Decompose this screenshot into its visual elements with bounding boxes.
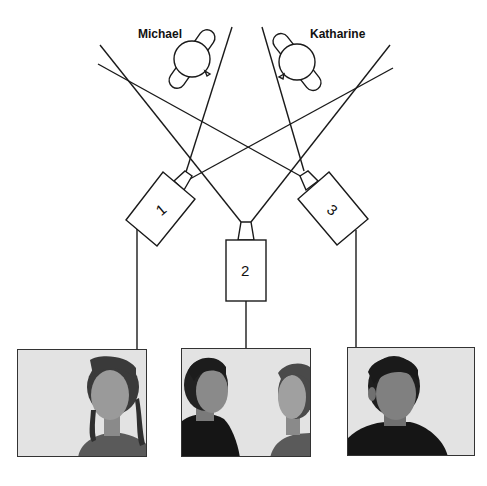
photo-camera-1 bbox=[17, 349, 147, 457]
label-katharine: Katharine bbox=[310, 27, 366, 41]
label-michael: Michael bbox=[138, 27, 182, 41]
katharine-portrait bbox=[18, 350, 147, 457]
photo-camera-2 bbox=[181, 348, 311, 457]
michael-portrait bbox=[348, 348, 475, 456]
camera-2-number: 2 bbox=[241, 262, 249, 279]
michael-nose bbox=[205, 71, 210, 76]
photo-camera-3 bbox=[347, 347, 475, 456]
katharine-nose bbox=[279, 74, 284, 79]
camera-2-lens bbox=[238, 222, 254, 240]
two-shot-portrait bbox=[182, 349, 311, 457]
sight-line-cam3-wide bbox=[98, 64, 304, 178]
